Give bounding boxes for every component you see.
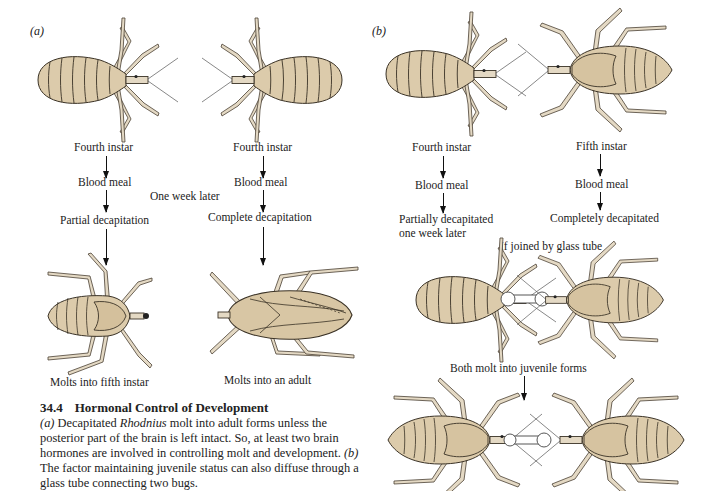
caption-part-a-label: (a)	[40, 416, 54, 430]
panel-a-label: (a)	[30, 24, 44, 39]
figure-number: 34.4	[40, 400, 63, 415]
bug-fourth-instar-b	[438, 74, 439, 75]
arrow-icon	[263, 190, 264, 212]
arrow-icon	[106, 190, 107, 212]
a-left-outcome: Molts into fifth instar	[50, 376, 149, 388]
b-left-step-3: Partially decapitated	[399, 213, 493, 225]
glass-tube-result	[0, 0, 1, 1]
b-left-step-4: one week later	[399, 227, 466, 239]
bug-joined-right	[595, 300, 596, 301]
arrow-icon	[443, 193, 444, 213]
a-right-outcome: Molts into an adult	[224, 374, 311, 386]
b-right-step-1: Fifth instar	[576, 140, 627, 152]
b-join-label: If joined by glass tube	[500, 240, 602, 252]
arrow-icon	[600, 154, 601, 176]
bug-fifth-instar-outcome	[88, 316, 89, 317]
figure-caption: 34.4Hormonal Control of Development (a) …	[40, 400, 370, 491]
arrow-icon	[263, 227, 264, 265]
arrow-icon	[263, 156, 264, 178]
bug-fourth-instar-a-right	[290, 80, 291, 81]
a-right-step-2: Blood meal	[234, 176, 287, 188]
panel-b-label: (b)	[372, 24, 386, 39]
b-right-step-3: Completely decapitated	[550, 212, 659, 224]
bug-fourth-instar-a-left	[90, 80, 91, 81]
arrow-icon	[443, 156, 444, 178]
figure-title: Hormonal Control of Development	[75, 400, 269, 415]
bug-result-left	[460, 440, 461, 441]
bug-result-right	[612, 440, 613, 441]
arrow-icon	[106, 156, 107, 178]
arrow-icon	[600, 192, 601, 210]
caption-text: Decapitated	[58, 416, 117, 430]
b-left-step-1: Fourth instar	[412, 141, 471, 153]
b-right-step-2: Blood meal	[575, 178, 628, 190]
caption-body: (a) Decapitated Rhodnius molt into adult…	[40, 416, 370, 491]
bug-adult-outcome	[270, 315, 271, 316]
bug-fifth-instar-b	[600, 70, 601, 71]
a-left-step-2: Blood meal	[78, 176, 131, 188]
arrow-icon	[524, 376, 525, 400]
b-result-label: Both molt into juvenile forms	[450, 362, 587, 374]
caption-part-b-label: (b)	[344, 446, 358, 460]
caption-text: The factor maintaining juvenile status c…	[40, 461, 359, 490]
arrow-icon	[106, 229, 107, 265]
a-middle-note: One week later	[150, 190, 220, 202]
a-left-step-1: Fourth instar	[74, 141, 133, 153]
a-right-step-3: Complete decapitation	[208, 211, 312, 223]
b-left-step-2: Blood meal	[415, 179, 468, 191]
caption-species: Rhodnius	[120, 416, 167, 430]
a-left-step-3: Partial decapitation	[60, 214, 149, 226]
bug-joined-left	[468, 300, 469, 301]
a-right-step-1: Fourth instar	[233, 141, 292, 153]
